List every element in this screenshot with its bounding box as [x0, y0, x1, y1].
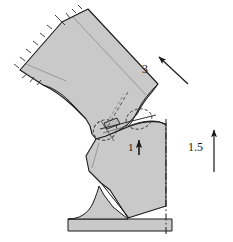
figure-drawing: [0, 0, 233, 242]
arrow-up-left-icon: [159, 57, 188, 84]
velocity-upper-label: 3: [142, 63, 148, 75]
contact-mechanics-figure: 3 1.5 1: [0, 0, 233, 242]
contact-force-label: 1: [128, 142, 134, 153]
base-slab: [68, 219, 172, 231]
velocity-lower-label: 1.5: [188, 141, 203, 153]
